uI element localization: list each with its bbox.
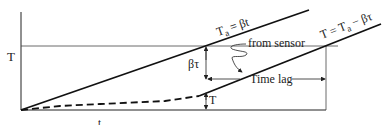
sensor-temperature-label: T xyxy=(209,93,217,107)
y-axis-label: T xyxy=(7,49,15,64)
diagram-canvas: T t Ta = βt T = Ta − βτ from sensor βτ T… xyxy=(0,0,387,125)
x-axis-label: t xyxy=(98,116,101,125)
ambient-temperature-line xyxy=(21,10,309,110)
beta-tau-label: βτ xyxy=(188,57,199,71)
sensor-time-lag-diagram: T t Ta = βt T = Ta − βτ from sensor βτ T… xyxy=(0,0,387,125)
from-sensor-pointer-arrow xyxy=(231,44,247,72)
sensor-transient-dashed-curve xyxy=(21,96,199,110)
from-sensor-label: from sensor xyxy=(248,36,305,50)
time-lag-label: Time lag xyxy=(250,72,293,86)
